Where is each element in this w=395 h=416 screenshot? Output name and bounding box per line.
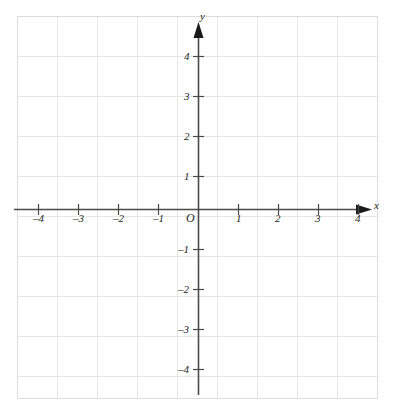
x-tick-label--3: –3 bbox=[73, 213, 84, 224]
y-tick-label--3: –3 bbox=[178, 324, 189, 335]
x-axis-label: x bbox=[374, 200, 379, 211]
y-tick-label-4: 4 bbox=[184, 51, 190, 62]
x-tick-label-2: 2 bbox=[275, 213, 281, 224]
x-tick-label-1: 1 bbox=[236, 213, 242, 224]
canvas-background bbox=[0, 0, 395, 416]
x-tick-label-4: 4 bbox=[355, 213, 361, 224]
x-tick-label--4: –4 bbox=[33, 213, 44, 224]
x-tick-label--1: –1 bbox=[153, 213, 164, 224]
x-tick-label--2: –2 bbox=[113, 213, 124, 224]
y-tick-label-1: 1 bbox=[184, 171, 190, 182]
y-tick-label--1: –1 bbox=[178, 244, 189, 255]
x-tick-label-3: 3 bbox=[315, 213, 321, 224]
y-tick-label-3: 3 bbox=[184, 91, 190, 102]
y-tick-label--2: –2 bbox=[178, 284, 189, 295]
origin-label: O bbox=[186, 212, 195, 224]
grid-and-axes bbox=[0, 0, 395, 416]
y-tick-label-2: 2 bbox=[184, 131, 190, 142]
coordinate-plane: –4 –3 –2 –1 1 2 3 4 4 3 2 1 –1 –2 –3 –4 … bbox=[0, 0, 395, 416]
y-tick-label--4: –4 bbox=[178, 364, 189, 375]
y-axis-label: y bbox=[200, 11, 205, 22]
